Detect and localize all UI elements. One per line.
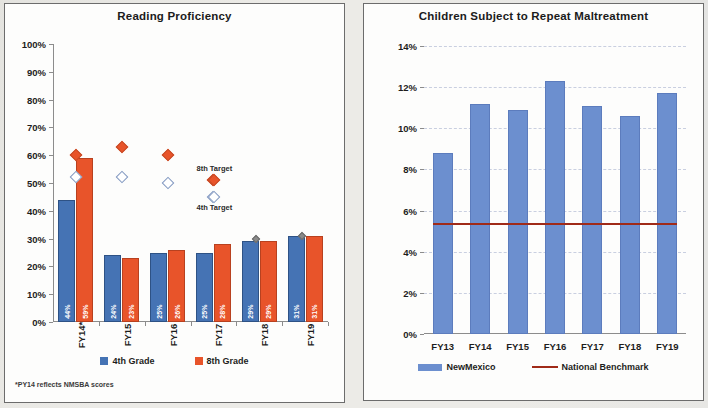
bar-4th-grade[interactable]: 44% bbox=[58, 200, 75, 322]
legend-swatch-icon bbox=[100, 357, 108, 365]
bar-8th-grade[interactable]: 28% bbox=[214, 244, 231, 322]
repeat-maltreatment-legend: NewMexicoNational Benchmark bbox=[364, 362, 703, 372]
bar-4th-grade[interactable]: 25% bbox=[150, 253, 167, 323]
bar-8th-grade[interactable]: 26% bbox=[168, 250, 185, 322]
bar-new-mexico[interactable] bbox=[582, 106, 602, 334]
left-y-tick bbox=[49, 72, 53, 73]
right-y-tick bbox=[420, 169, 424, 170]
right-y-tick bbox=[420, 87, 424, 88]
legend-label: 4th Grade bbox=[112, 356, 154, 366]
bar-value-label: 29% bbox=[247, 304, 254, 319]
left-y-tick-label: 10% bbox=[27, 289, 46, 300]
left-y-tick-label: 20% bbox=[27, 261, 46, 272]
left-x-axis-label: FY18 bbox=[259, 324, 270, 347]
legend-item[interactable]: NewMexico bbox=[418, 362, 495, 372]
legend-swatch-icon bbox=[418, 364, 442, 371]
legend-item[interactable]: 4th Grade bbox=[100, 356, 154, 366]
left-y-tick-label: 80% bbox=[27, 94, 46, 105]
right-x-axis-label: FY14 bbox=[469, 341, 492, 352]
legend-item[interactable]: National Benchmark bbox=[532, 362, 649, 372]
left-y-tick bbox=[49, 127, 53, 128]
bar-value-label: 25% bbox=[201, 304, 208, 319]
right-y-tick-label: 4% bbox=[403, 246, 417, 257]
right-x-axis-label: FY16 bbox=[544, 341, 567, 352]
left-y-tick bbox=[49, 294, 53, 295]
bar-value-label: 59% bbox=[81, 304, 88, 319]
right-y-tick bbox=[420, 293, 424, 294]
legend-label: National Benchmark bbox=[562, 362, 649, 372]
repeat-maltreatment-plot-area: Children Subject to Repeat Maltreatment … bbox=[364, 4, 703, 400]
left-y-tick-label: 50% bbox=[27, 178, 46, 189]
reading-proficiency-plot-area: Reading Proficiency 0%10%20%30%40%50%60%… bbox=[5, 4, 344, 402]
left-y-tick bbox=[49, 155, 53, 156]
repeat-maltreatment-title: Children Subject to Repeat Maltreatment bbox=[364, 10, 703, 22]
right-gridline bbox=[424, 46, 686, 47]
right-y-tick-label: 14% bbox=[398, 41, 417, 52]
bar-value-label: 29% bbox=[265, 304, 272, 319]
right-y-tick-label: 0% bbox=[403, 329, 417, 340]
bar-value-label: 25% bbox=[155, 304, 162, 319]
bar-4th-grade[interactable]: 29% bbox=[242, 241, 259, 322]
bar-new-mexico[interactable] bbox=[545, 81, 565, 334]
left-x-axis-label: FY17 bbox=[213, 324, 224, 347]
bar-new-mexico[interactable] bbox=[433, 153, 453, 334]
bar-group: 29%29% bbox=[242, 44, 277, 322]
reading-proficiency-footnote: *PY14 reflects NMSBA scores bbox=[15, 381, 114, 388]
bar-value-label: 31% bbox=[311, 304, 318, 319]
bar-new-mexico[interactable] bbox=[508, 110, 528, 334]
bar-new-mexico[interactable] bbox=[657, 93, 677, 334]
right-y-tick bbox=[420, 334, 424, 335]
right-x-axis-label: FY19 bbox=[656, 341, 679, 352]
left-y-tick-label: 60% bbox=[27, 150, 46, 161]
bar-value-label: 44% bbox=[63, 304, 70, 319]
left-y-tick bbox=[49, 211, 53, 212]
reading-proficiency-panel: Reading Proficiency 0%10%20%30%40%50%60%… bbox=[4, 3, 345, 403]
legend-label: NewMexico bbox=[446, 362, 495, 372]
bar-4th-grade[interactable]: 31% bbox=[288, 236, 305, 322]
right-x-axis-label: FY17 bbox=[581, 341, 604, 352]
right-y-tick-label: 2% bbox=[403, 287, 417, 298]
left-x-tick bbox=[145, 322, 146, 326]
bar-8th-grade[interactable]: 59% bbox=[76, 158, 93, 322]
left-y-tick-label: 30% bbox=[27, 233, 46, 244]
reading-proficiency-legend: 4th Grade8th Grade bbox=[5, 356, 344, 366]
left-y-tick-label: 70% bbox=[27, 122, 46, 133]
right-y-tick-label: 12% bbox=[398, 82, 417, 93]
right-y-tick-label: 6% bbox=[403, 205, 417, 216]
document-page: Reading Proficiency 0%10%20%30%40%50%60%… bbox=[0, 0, 708, 408]
left-x-axis-label: FY14* bbox=[76, 322, 87, 348]
right-y-tick bbox=[420, 211, 424, 212]
left-y-tick bbox=[49, 183, 53, 184]
bar-8th-grade[interactable]: 31% bbox=[306, 236, 323, 322]
left-y-tick bbox=[49, 322, 53, 323]
left-x-tick bbox=[328, 322, 329, 326]
reading-proficiency-axes: 0%10%20%30%40%50%60%70%80%90%100%44%59%F… bbox=[53, 44, 328, 322]
right-x-axis-label: FY15 bbox=[506, 341, 529, 352]
left-y-tick bbox=[49, 100, 53, 101]
legend-item[interactable]: 8th Grade bbox=[195, 356, 249, 366]
right-y-tick bbox=[420, 128, 424, 129]
left-x-tick bbox=[191, 322, 192, 326]
left-y-tick-label: 100% bbox=[22, 39, 46, 50]
bar-value-label: 24% bbox=[109, 304, 116, 319]
left-x-axis-label: FY16 bbox=[168, 324, 179, 347]
left-x-tick bbox=[282, 322, 283, 326]
repeat-maltreatment-panel: Children Subject to Repeat Maltreatment … bbox=[363, 3, 704, 401]
left-y-tick bbox=[49, 266, 53, 267]
bar-new-mexico[interactable] bbox=[470, 104, 490, 334]
bar-4th-grade[interactable]: 24% bbox=[104, 255, 121, 322]
left-x-tick bbox=[236, 322, 237, 326]
bar-8th-grade[interactable]: 23% bbox=[122, 258, 139, 322]
repeat-maltreatment-axes: 0%2%4%6%8%10%12%14%FY13FY14FY15FY16FY17F… bbox=[424, 46, 686, 334]
bar-new-mexico[interactable] bbox=[620, 116, 640, 334]
bar-4th-grade[interactable]: 25% bbox=[196, 253, 213, 323]
left-y-tick-label: 0% bbox=[32, 317, 46, 328]
left-y-tick bbox=[49, 239, 53, 240]
annotation-4th-target: 4th Target bbox=[196, 203, 232, 212]
legend-label: 8th Grade bbox=[207, 356, 249, 366]
left-x-axis-label: FY19 bbox=[305, 324, 316, 347]
bar-8th-grade[interactable]: 29% bbox=[260, 241, 277, 322]
right-y-tick bbox=[420, 252, 424, 253]
legend-swatch-icon bbox=[195, 357, 203, 365]
right-x-axis-label: FY18 bbox=[618, 341, 641, 352]
